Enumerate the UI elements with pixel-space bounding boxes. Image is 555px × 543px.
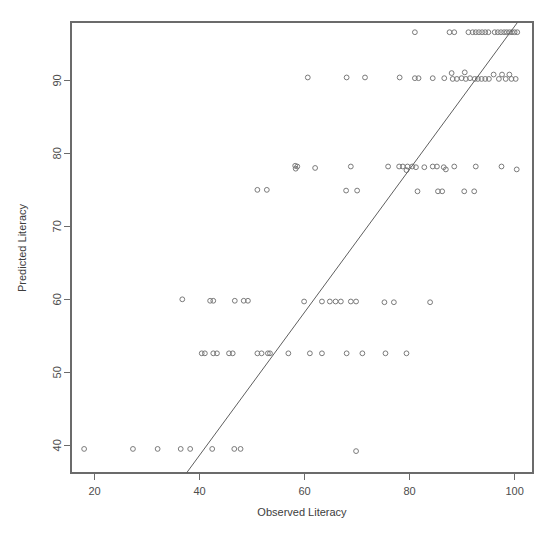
data-point bbox=[338, 299, 343, 304]
data-point bbox=[415, 189, 420, 194]
data-point bbox=[211, 298, 216, 303]
data-point bbox=[188, 447, 193, 452]
data-point bbox=[333, 299, 338, 304]
data-point bbox=[354, 449, 359, 454]
data-point bbox=[320, 351, 325, 356]
data-points-layer bbox=[82, 30, 520, 454]
plot-canvas: 20406080100 405060708090 Observed Litera… bbox=[0, 0, 555, 543]
data-point bbox=[514, 167, 519, 172]
data-point bbox=[449, 71, 454, 76]
data-point bbox=[344, 351, 349, 356]
data-point bbox=[354, 299, 359, 304]
y-axis-title: Predicted Literacy bbox=[16, 203, 28, 292]
data-point bbox=[232, 447, 237, 452]
x-tick-label: 60 bbox=[299, 485, 311, 497]
y-axis-ticks: 405060708090 bbox=[51, 74, 71, 451]
plot-box bbox=[71, 22, 533, 473]
data-point bbox=[178, 447, 183, 452]
y-tick-label: 70 bbox=[51, 220, 63, 232]
data-point bbox=[307, 351, 312, 356]
data-point bbox=[383, 351, 388, 356]
data-point bbox=[472, 189, 477, 194]
data-point bbox=[430, 76, 435, 81]
data-point bbox=[462, 70, 467, 75]
data-point bbox=[327, 299, 332, 304]
data-point bbox=[286, 351, 291, 356]
data-point bbox=[255, 187, 260, 192]
data-point bbox=[344, 188, 349, 193]
data-point bbox=[447, 30, 452, 35]
data-point bbox=[462, 189, 467, 194]
y-tick-label: 80 bbox=[51, 147, 63, 159]
y-tick-label: 40 bbox=[51, 439, 63, 451]
data-point bbox=[491, 72, 496, 77]
data-point bbox=[452, 30, 457, 35]
y-tick-label: 50 bbox=[51, 366, 63, 378]
data-point bbox=[180, 297, 185, 302]
data-point bbox=[496, 77, 501, 82]
data-point bbox=[391, 300, 396, 305]
data-point bbox=[202, 351, 207, 356]
data-point bbox=[313, 166, 318, 171]
data-point bbox=[397, 75, 402, 80]
data-point bbox=[422, 165, 427, 170]
data-point bbox=[499, 164, 504, 169]
data-point bbox=[360, 351, 365, 356]
data-point bbox=[412, 30, 417, 35]
data-point bbox=[302, 299, 307, 304]
data-point bbox=[404, 351, 409, 356]
y-tick-label: 90 bbox=[51, 74, 63, 86]
data-point bbox=[503, 77, 508, 82]
data-point bbox=[486, 30, 491, 35]
scatter-plot-figure: 20406080100 405060708090 Observed Litera… bbox=[0, 0, 555, 543]
data-point bbox=[305, 75, 310, 80]
data-point bbox=[348, 164, 353, 169]
data-point bbox=[473, 164, 478, 169]
x-tick-label: 80 bbox=[404, 485, 416, 497]
data-point bbox=[210, 447, 215, 452]
data-point bbox=[155, 447, 160, 452]
data-point bbox=[363, 75, 368, 80]
data-point bbox=[428, 300, 433, 305]
data-point bbox=[355, 188, 360, 193]
x-tick-label: 20 bbox=[89, 485, 101, 497]
y-tick-label: 60 bbox=[51, 293, 63, 305]
data-point bbox=[320, 299, 325, 304]
data-point bbox=[442, 76, 447, 81]
data-point bbox=[382, 300, 387, 305]
data-point bbox=[386, 164, 391, 169]
data-point bbox=[238, 447, 243, 452]
x-tick-label: 40 bbox=[194, 485, 206, 497]
data-point bbox=[452, 164, 457, 169]
x-tick-label: 100 bbox=[505, 485, 523, 497]
data-point bbox=[500, 72, 505, 77]
identity-reference-line bbox=[187, 22, 518, 473]
plot-frame-rect bbox=[71, 22, 533, 473]
data-point bbox=[264, 187, 269, 192]
data-point bbox=[131, 447, 136, 452]
data-point bbox=[348, 299, 353, 304]
x-axis-title: Observed Literacy bbox=[257, 506, 347, 518]
data-point bbox=[344, 75, 349, 80]
data-point bbox=[82, 447, 87, 452]
x-axis-ticks: 20406080100 bbox=[89, 473, 524, 497]
data-point bbox=[232, 298, 237, 303]
